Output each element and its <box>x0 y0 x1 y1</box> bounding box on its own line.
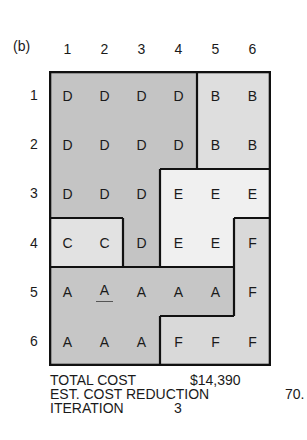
grid-cell: E <box>197 219 234 268</box>
cell-label: A <box>100 334 109 350</box>
cell-label: C <box>99 235 109 251</box>
total-cost-value: $14,390 <box>190 373 241 387</box>
grid-cell: F <box>234 317 271 366</box>
grid-cell: D <box>160 71 197 120</box>
grid-cell: B <box>234 71 271 120</box>
grid-cell: F <box>234 268 271 317</box>
cell-label: A <box>137 284 146 300</box>
grid-cell: A <box>86 268 123 317</box>
cell-label: F <box>248 334 257 350</box>
cell-label: B <box>211 88 220 104</box>
cell-label: A <box>63 284 72 300</box>
iteration-value: 3 <box>174 401 182 415</box>
cell-label: D <box>173 88 183 104</box>
cell-label: F <box>174 334 183 350</box>
grid-cell: D <box>86 71 123 120</box>
grid-cell: E <box>160 219 197 268</box>
grid-cell: B <box>234 120 271 169</box>
column-header-3: 3 <box>123 41 160 57</box>
grid-cell: C <box>49 219 86 268</box>
cell-label: A <box>174 284 183 300</box>
cell-label: A <box>63 334 72 350</box>
cell-label: D <box>99 88 109 104</box>
cell-label: E <box>174 186 183 202</box>
cell-label: E <box>211 186 220 202</box>
grid-cell: E <box>234 169 271 218</box>
cell-label: F <box>211 334 220 350</box>
cell-label: B <box>248 88 257 104</box>
cell-label: D <box>136 137 146 153</box>
cell-label: B <box>248 137 257 153</box>
grid-cell: F <box>160 317 197 366</box>
cell-label: D <box>62 186 72 202</box>
layout-grid: DDDDBBDDDDBBDDDEEECCDEEFAAAAAFAAAFFF <box>49 71 271 366</box>
row-header-3: 3 <box>26 185 42 201</box>
cell-label: B <box>211 137 220 153</box>
cell-label: D <box>99 186 109 202</box>
grid-cell: D <box>123 71 160 120</box>
grid-cell: D <box>160 120 197 169</box>
grid-cell: D <box>123 169 160 218</box>
row-header-6: 6 <box>26 333 42 349</box>
grid-cell: F <box>234 219 271 268</box>
grid-cell: A <box>86 317 123 366</box>
cell-label: D <box>173 137 183 153</box>
cell-label: F <box>248 284 257 300</box>
grid-cell: F <box>197 317 234 366</box>
cell-label: D <box>136 88 146 104</box>
grid-cell: D <box>49 71 86 120</box>
grid-cell: A <box>197 268 234 317</box>
cell-label: D <box>136 186 146 202</box>
grid-cell: A <box>160 268 197 317</box>
grid-cell: A <box>49 317 86 366</box>
grid-cell: A <box>123 268 160 317</box>
column-header-5: 5 <box>197 41 234 57</box>
grid-cell: D <box>123 219 160 268</box>
cell-label: C <box>62 235 72 251</box>
column-header-1: 1 <box>49 41 86 57</box>
column-header-4: 4 <box>160 41 197 57</box>
row-header-5: 5 <box>26 284 42 300</box>
iteration-label: ITERATION <box>50 400 124 416</box>
grid-cell: E <box>160 169 197 218</box>
row-header-1: 1 <box>26 87 42 103</box>
grid-cell: D <box>49 169 86 218</box>
cell-label: D <box>136 235 146 251</box>
cell-label: D <box>99 137 109 153</box>
grid-cell: D <box>86 169 123 218</box>
panel-label: (b) <box>13 38 30 54</box>
cell-label: E <box>248 186 257 202</box>
cell-label: E <box>174 235 183 251</box>
grid-cell: B <box>197 120 234 169</box>
column-header-2: 2 <box>86 41 123 57</box>
cell-label: D <box>62 88 72 104</box>
grid-cell: D <box>123 120 160 169</box>
grid-cell: A <box>123 317 160 366</box>
grid-cell: D <box>49 120 86 169</box>
grid-cell: A <box>49 268 86 317</box>
grid-cell: D <box>86 120 123 169</box>
cell-label: E <box>211 235 220 251</box>
grid-cell: C <box>86 219 123 268</box>
cell-label: A <box>137 334 146 350</box>
cell-label: A <box>211 284 220 300</box>
cell-label: F <box>248 235 257 251</box>
grid-cell: B <box>197 71 234 120</box>
column-header-6: 6 <box>234 41 271 57</box>
est-reduction-value: 70. <box>285 387 304 401</box>
row-header-4: 4 <box>26 235 42 251</box>
cell-label: D <box>62 137 72 153</box>
grid-cell: E <box>197 169 234 218</box>
row-header-2: 2 <box>26 136 42 152</box>
stats-block: TOTAL COST $14,390 EST. COST REDUCTION 7… <box>50 373 209 415</box>
cell-label: A <box>96 282 113 302</box>
